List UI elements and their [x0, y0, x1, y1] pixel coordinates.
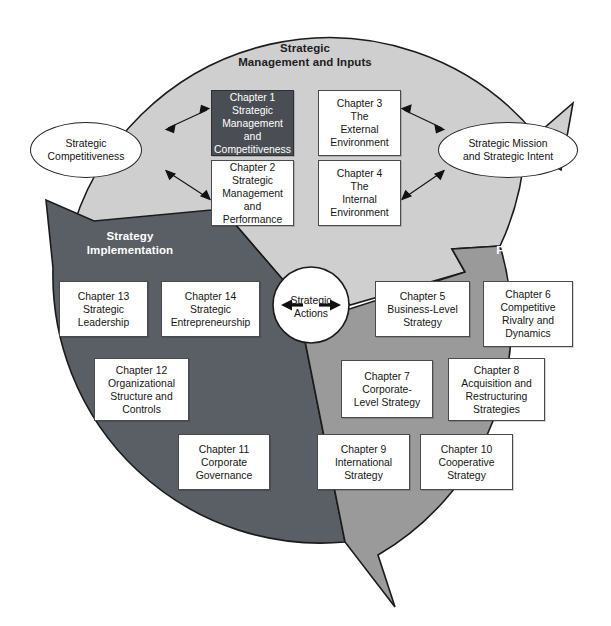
oval-strategic-mission-and-strategic-intent: Strategic Mission and Strategic Intent: [438, 122, 578, 178]
chapter-box-14: Chapter 14 Strategic Entrepreneurship: [161, 281, 260, 337]
oval-strategic-competitiveness: Strategic Competitiveness: [30, 122, 142, 178]
chapter-box-4: Chapter 4 The Internal Environment: [318, 160, 401, 226]
chapter-box-5: Chapter 5 Business-Level Strategy: [375, 281, 470, 337]
chapter-box-10: Chapter 10 Cooperative Strategy: [420, 434, 513, 490]
chapter-box-1: Chapter 1 Strategic Management and Compe…: [211, 90, 294, 156]
chapter-box-11: Chapter 11 Corporate Governance: [178, 434, 270, 490]
chapter-box-12: Chapter 12 Organizational Structure and …: [94, 358, 189, 421]
chapter-box-6: Chapter 6 Competitive Rivalry and Dynami…: [483, 281, 573, 347]
chapter-box-13: Chapter 13 Strategic Leadership: [59, 281, 148, 337]
chapter-box-3: Chapter 3 The External Environment: [318, 90, 401, 156]
chapter-box-7: Chapter 7 Corporate- Level Strategy: [341, 360, 433, 418]
chapter-box-8: Chapter 8 Acquisition and Restructuring …: [448, 358, 545, 421]
chapter-box-2: Chapter 2 Strategic Management and Perfo…: [211, 160, 294, 226]
chapter-box-9: Chapter 9 International Strategy: [317, 434, 410, 490]
strategic-management-process-diagram: Strategic Management and Inputs Strategy…: [0, 0, 611, 626]
